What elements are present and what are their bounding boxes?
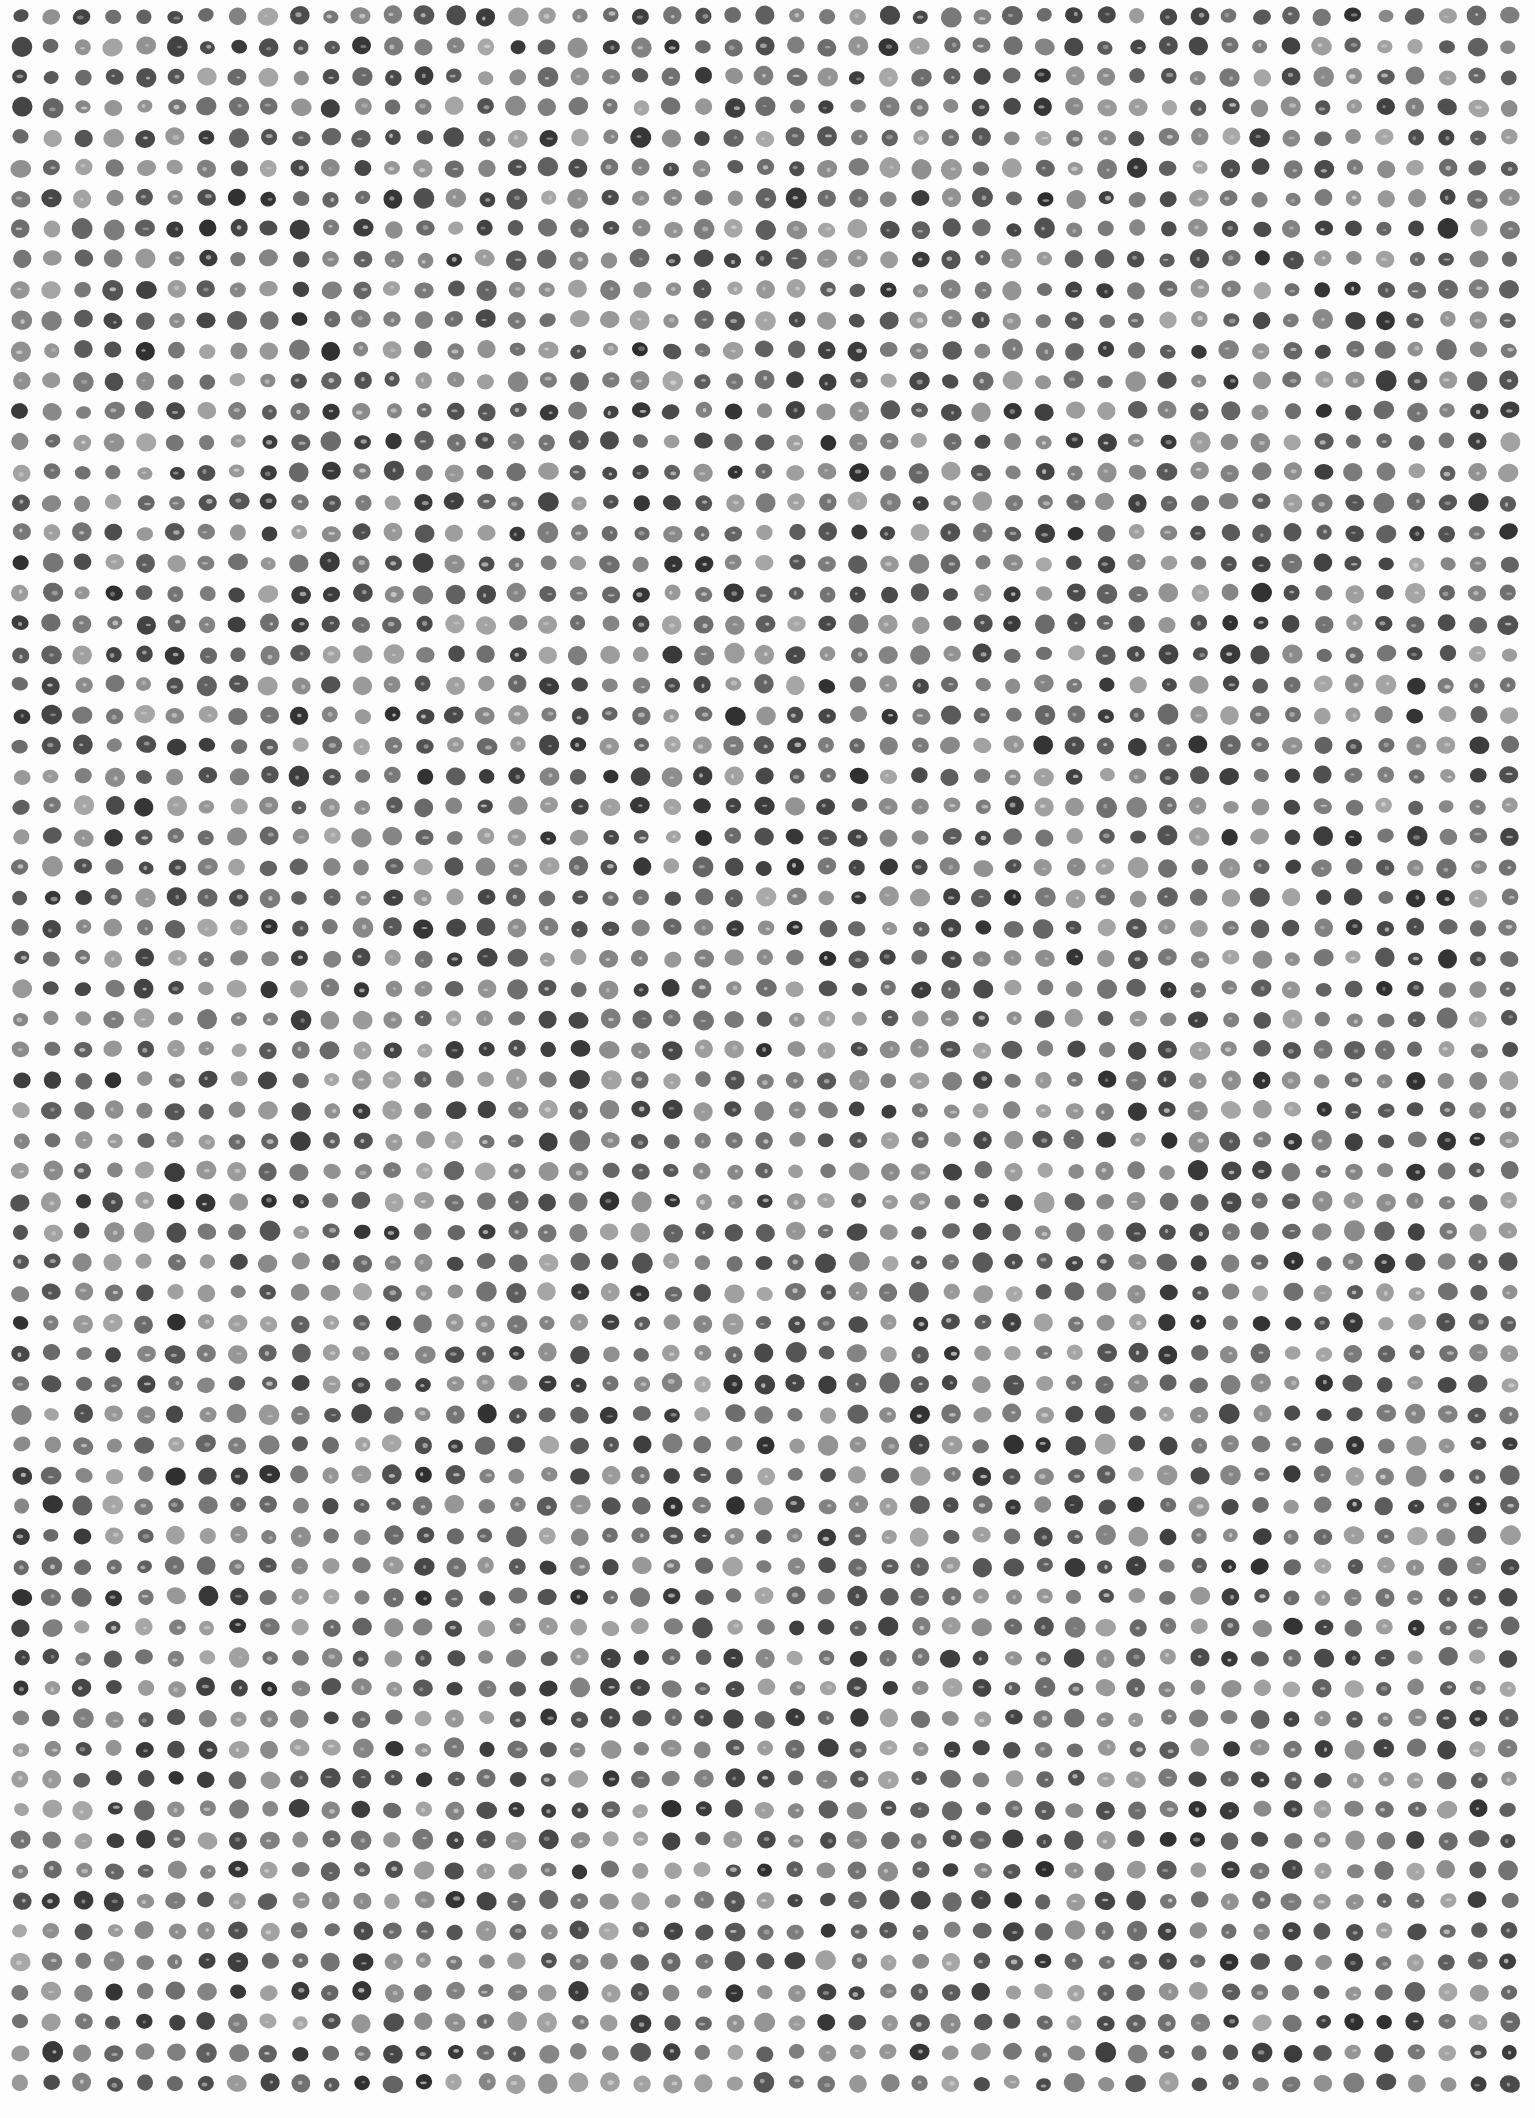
pencil-dot bbox=[166, 1859, 188, 1880]
pencil-dot bbox=[477, 1192, 496, 1210]
pencil-dot bbox=[1220, 1922, 1239, 1940]
dot-highlight bbox=[859, 135, 862, 138]
dot-highlight bbox=[388, 13, 393, 16]
pencil-dot bbox=[754, 492, 777, 515]
dot-highlight bbox=[206, 1412, 210, 1415]
pencil-dot bbox=[818, 1800, 838, 1819]
pencil-dot bbox=[1158, 160, 1177, 177]
pencil-dot bbox=[1465, 1523, 1488, 1546]
dot-highlight bbox=[610, 287, 614, 291]
pencil-dot bbox=[1373, 1983, 1393, 2001]
pencil-dot bbox=[1127, 401, 1147, 419]
pencil-dot bbox=[724, 705, 747, 727]
dot-highlight bbox=[1478, 1260, 1481, 1263]
pencil-dot bbox=[198, 1496, 219, 1515]
dot-highlight bbox=[793, 502, 799, 505]
pencil-dot bbox=[1063, 340, 1086, 362]
pencil-dot bbox=[755, 1617, 777, 1637]
dot-highlight bbox=[1287, 987, 1291, 990]
dot-highlight bbox=[237, 225, 241, 229]
dot-highlight bbox=[611, 135, 615, 138]
pencil-dot bbox=[1001, 826, 1024, 847]
dot-highlight bbox=[1505, 1839, 1509, 1844]
dot-highlight bbox=[513, 865, 519, 868]
pencil-dot bbox=[538, 951, 557, 969]
dot-highlight bbox=[1072, 1774, 1077, 1779]
pencil-dot bbox=[168, 342, 185, 359]
pencil-dot bbox=[816, 1587, 837, 1606]
pencil-dot bbox=[878, 856, 901, 877]
dot-highlight bbox=[917, 1080, 922, 1083]
pencil-dot bbox=[911, 1680, 929, 1696]
pencil-dot bbox=[1003, 648, 1021, 664]
dot-highlight bbox=[827, 774, 831, 777]
dot-highlight bbox=[175, 895, 179, 900]
dot-highlight bbox=[109, 1320, 114, 1323]
pencil-dot bbox=[1498, 1801, 1518, 1819]
pencil-dot bbox=[1249, 887, 1271, 908]
dot-highlight bbox=[358, 1109, 363, 1113]
dot-highlight bbox=[1198, 133, 1201, 137]
pencil-dot bbox=[1314, 402, 1333, 420]
pencil-dot bbox=[999, 246, 1024, 270]
pencil-dot bbox=[972, 1439, 989, 1454]
dot-highlight bbox=[1045, 349, 1049, 354]
dot-highlight bbox=[393, 1598, 396, 1601]
dot-highlight bbox=[605, 958, 610, 961]
dot-highlight bbox=[330, 198, 334, 202]
dot-highlight bbox=[605, 1199, 611, 1203]
pencil-dot bbox=[628, 1952, 651, 1973]
pencil-dot bbox=[1407, 2044, 1425, 2060]
dot-highlight bbox=[1198, 107, 1202, 111]
dot-highlight bbox=[1474, 833, 1481, 836]
dot-highlight bbox=[1196, 1533, 1201, 1537]
dot-highlight bbox=[857, 1957, 862, 1962]
pencil-dot bbox=[198, 1863, 217, 1881]
pencil-dot bbox=[226, 187, 248, 209]
pencil-dot bbox=[257, 1070, 279, 1091]
dot-highlight bbox=[574, 1748, 581, 1750]
dot-highlight bbox=[702, 926, 706, 931]
pencil-dot bbox=[290, 1374, 310, 1392]
dot-highlight bbox=[20, 319, 24, 324]
dot-highlight bbox=[295, 379, 299, 382]
dot-highlight bbox=[19, 655, 22, 660]
dot-highlight bbox=[202, 1203, 207, 1206]
dot-highlight bbox=[795, 742, 802, 747]
pencil-dot bbox=[881, 2074, 900, 2092]
dot-highlight bbox=[731, 1992, 738, 1994]
dot-highlight bbox=[207, 1748, 213, 1752]
dot-highlight bbox=[609, 929, 612, 931]
dot-highlight bbox=[48, 928, 53, 932]
dot-highlight bbox=[979, 1503, 985, 1507]
pencil-dot bbox=[1034, 1893, 1051, 1910]
pencil-dot bbox=[850, 981, 869, 998]
pencil-dot bbox=[508, 525, 526, 542]
pencil-dot bbox=[973, 9, 992, 26]
dot-highlight bbox=[1104, 2023, 1109, 2026]
dot-highlight bbox=[854, 1686, 861, 1690]
dot-highlight bbox=[1224, 197, 1229, 201]
pencil-dot bbox=[196, 1068, 220, 1090]
dot-highlight bbox=[1011, 1411, 1016, 1414]
dot-highlight bbox=[420, 2052, 426, 2056]
pencil-dot bbox=[783, 795, 806, 817]
dot-highlight bbox=[1194, 77, 1197, 80]
dot-highlight bbox=[1227, 287, 1231, 291]
pencil-dot bbox=[412, 1982, 434, 2003]
dot-highlight bbox=[266, 499, 273, 504]
pencil-dot bbox=[1126, 737, 1148, 758]
pencil-dot bbox=[226, 5, 248, 27]
pencil-dot bbox=[942, 341, 963, 361]
dot-highlight bbox=[886, 1658, 889, 1662]
dot-highlight bbox=[1507, 866, 1511, 869]
dot-highlight bbox=[266, 1839, 271, 1842]
pencil-dot bbox=[352, 859, 369, 876]
dot-highlight bbox=[1071, 1137, 1074, 1139]
pencil-dot bbox=[1096, 1223, 1116, 1243]
pencil-dot bbox=[1250, 797, 1272, 818]
pencil-dot bbox=[972, 1739, 990, 1756]
dot-highlight bbox=[18, 1749, 23, 1753]
dot-highlight bbox=[173, 530, 179, 534]
dot-highlight bbox=[1447, 1597, 1450, 1601]
